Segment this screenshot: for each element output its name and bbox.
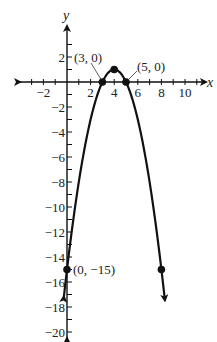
y-tick-label: −10 (45, 200, 65, 215)
x-axis-label: x (206, 75, 214, 90)
annotation-3-0: (3, 0) (74, 50, 102, 65)
x-tick-label: 2 (87, 85, 94, 100)
x-tick-label: −2 (36, 85, 50, 100)
data-point (63, 266, 71, 274)
x-tick-label: 8 (158, 85, 165, 100)
data-point (158, 266, 166, 274)
data-point (99, 78, 107, 86)
y-tick-label: −8 (51, 175, 65, 190)
y-tick-label: −14 (45, 250, 66, 265)
y-axis-label: y (61, 8, 70, 23)
y-tick-label: −16 (45, 275, 66, 290)
y-tick-label: −20 (45, 325, 65, 340)
leader-line-5-0 (128, 71, 137, 80)
annotation-0-neg15: (0, −15) (73, 262, 115, 277)
data-point (110, 66, 118, 74)
axes (18, 28, 204, 340)
parabola-graph: −22468102−2−4−6−8−10−12−14−16−18−20 (3, … (0, 0, 217, 342)
x-tick-label: 10 (179, 85, 192, 100)
y-tick-label: −12 (45, 225, 65, 240)
y-tick-label: −18 (45, 300, 65, 315)
y-tick-label: −4 (51, 125, 65, 140)
x-tick-label: 4 (111, 85, 118, 100)
annotation-5-0: (5, 0) (137, 59, 165, 74)
x-tick-label: 6 (135, 85, 142, 100)
y-tick-label: 2 (59, 50, 66, 65)
tick-labels: −22468102−2−4−6−8−10−12−14−16−18−20 (36, 50, 191, 340)
y-tick-label: −2 (51, 100, 65, 115)
leader-line-3-0 (91, 63, 101, 80)
y-tick-label: −6 (51, 150, 65, 165)
